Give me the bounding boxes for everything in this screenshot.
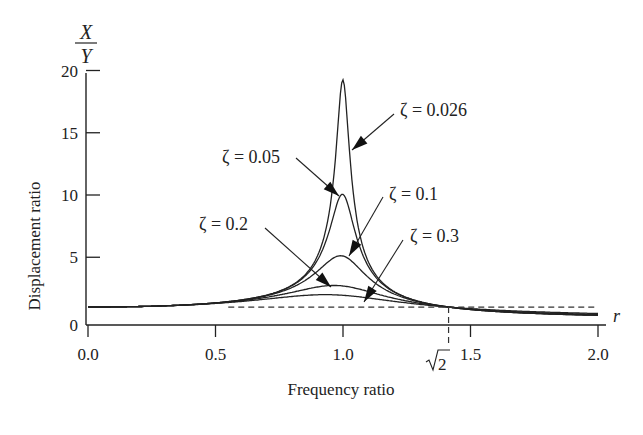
annotation-label: ζ = 0.1 xyxy=(389,184,438,204)
curve-zeta-0-3 xyxy=(88,295,598,314)
y-fraction-denominator: Y xyxy=(80,45,93,67)
x-tick-label: 1.5 xyxy=(460,345,481,364)
annotation-0026: ζ = 0.026 xyxy=(352,100,467,150)
annotation-005: ζ = 0.05 xyxy=(222,147,339,196)
y-tick-label: 15 xyxy=(61,124,78,143)
arrowhead-icon xyxy=(352,136,367,150)
y-tick-label: 0 xyxy=(70,316,79,335)
annotation-label: ζ = 0.05 xyxy=(222,147,280,167)
y-tick-label: 20 xyxy=(61,62,78,81)
y-axis-ticks: 05101520 xyxy=(61,62,100,336)
x-tick-label: 1.0 xyxy=(332,345,353,364)
curve-annotations: ζ = 0.026ζ = 0.05ζ = 0.1ζ = 0.2ζ = 0.3 xyxy=(199,100,467,302)
annotation-03: ζ = 0.3 xyxy=(364,226,459,302)
x-tick-label: 0.0 xyxy=(77,345,98,364)
x-axis-ticks: 0.00.51.01.52.0 xyxy=(77,325,608,364)
x-tick-label: 0.5 xyxy=(205,345,226,364)
x-axis-label: Frequency ratio xyxy=(287,380,394,399)
curve-zeta-0-05 xyxy=(88,194,598,315)
curve-zeta-0-026 xyxy=(88,80,598,315)
svg-text:2: 2 xyxy=(438,355,447,374)
y-fraction-numerator: X xyxy=(79,21,93,43)
annotation-label: ζ = 0.3 xyxy=(410,226,459,246)
x-axis-symbol: r xyxy=(613,306,621,326)
y-tick-label: 5 xyxy=(70,248,79,267)
annotation-label: ζ = 0.2 xyxy=(199,214,248,234)
y-tick-label: 10 xyxy=(61,186,78,205)
response-curves xyxy=(88,80,598,315)
y-axis-label: Displacement ratio xyxy=(25,182,44,311)
curve-zeta-0-2 xyxy=(88,286,598,315)
frequency-response-chart: 05101520 0.00.51.01.52.0 X Y Displacemen… xyxy=(0,0,643,435)
sqrt2-label: 2 xyxy=(426,350,450,374)
x-tick-label: 2.0 xyxy=(587,345,608,364)
annotation-label: ζ = 0.026 xyxy=(400,100,467,120)
